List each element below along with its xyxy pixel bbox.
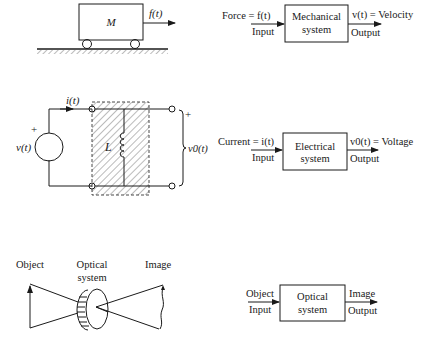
electrical-figure: i(t) + v(t) L + v0(t) xyxy=(16,94,208,195)
image-label: Image xyxy=(145,259,172,270)
mass-label: M xyxy=(105,16,116,28)
elec-input-top: Current = i(t) xyxy=(218,136,275,148)
ray-bottom-in xyxy=(30,313,78,328)
optical-block-diagram: Object Input Optical system Image Output xyxy=(246,285,377,321)
elec-output-top: v0(t) = Voltage xyxy=(350,136,414,148)
elec-box-line1: Electrical xyxy=(295,141,335,152)
system-diagrams: M f(t) Force = f(t) Input Mechanical sys… xyxy=(0,0,427,354)
output-plus: + xyxy=(185,108,191,120)
elec-input-bottom: Input xyxy=(252,152,274,163)
mech-output-top: v(t) = Velocity xyxy=(352,9,414,21)
voltage-source xyxy=(35,133,63,161)
source-label: v(t) xyxy=(16,141,32,154)
electrical-block-diagram: Current = i(t) Input Electrical system v… xyxy=(218,133,414,170)
mech-box-line2: system xyxy=(302,24,331,35)
terminal-out-bottom xyxy=(169,183,175,189)
mech-box-line1: Mechanical xyxy=(292,11,341,22)
mech-output-bottom: Output xyxy=(351,27,380,38)
image-wavy-line xyxy=(160,288,163,329)
mech-input-bottom: Input xyxy=(252,26,274,37)
opt-input-bottom: Input xyxy=(249,304,271,315)
optical-system-line1: Optical xyxy=(77,259,108,270)
opt-output-bottom: Output xyxy=(348,305,377,316)
force-label: f(t) xyxy=(149,7,163,20)
wheel-left xyxy=(83,40,92,49)
terminal-out-top xyxy=(169,106,175,112)
mechanical-figure: M f(t) xyxy=(37,4,175,54)
opt-box-line1: Optical xyxy=(297,291,328,302)
optical-figure: Object Optical system Image xyxy=(16,259,172,330)
opt-output-top: Image xyxy=(349,288,376,299)
mechanical-block-diagram: Force = f(t) Input Mechanical system v(t… xyxy=(222,5,414,42)
ray-bottom-out xyxy=(96,307,159,329)
ground-hatch xyxy=(37,50,168,54)
elec-box-line2: system xyxy=(300,153,329,164)
optical-system-line2: system xyxy=(77,272,106,283)
ray-top-out xyxy=(96,285,163,307)
inductor-label: L xyxy=(104,140,112,154)
opt-input-top: Object xyxy=(246,288,274,299)
lens xyxy=(86,289,108,329)
object-label: Object xyxy=(16,259,44,270)
mech-input-top: Force = f(t) xyxy=(222,10,271,22)
output-voltage-label: v0(t) xyxy=(188,143,208,155)
output-brace xyxy=(179,110,186,186)
opt-box-line2: system xyxy=(298,304,327,315)
wheel-right xyxy=(131,40,140,49)
ray-cross xyxy=(96,307,108,312)
ray-top-in xyxy=(30,284,78,302)
wire-left-loop xyxy=(49,109,92,186)
elec-output-bottom: Output xyxy=(350,153,379,164)
source-plus: + xyxy=(31,123,37,135)
current-label: i(t) xyxy=(66,94,80,107)
